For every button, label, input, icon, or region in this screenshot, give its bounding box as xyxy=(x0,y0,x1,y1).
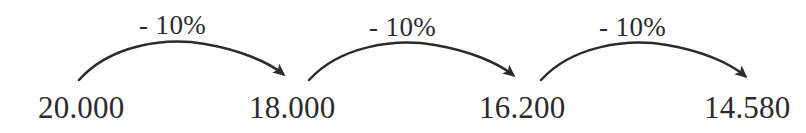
transition-arrow-1 xyxy=(79,42,283,80)
decline-flow-diagram: - 10% - 10% - 10% 20.000 18.000 16.200 1… xyxy=(0,0,806,133)
transition-label-1: - 10% xyxy=(139,12,206,39)
transition-arrow-2 xyxy=(309,43,513,80)
value-label-1: 20.000 xyxy=(38,92,124,123)
value-label-2: 18.000 xyxy=(249,92,335,123)
value-label-4: 14.580 xyxy=(704,92,790,123)
transition-label-3: - 10% xyxy=(599,14,666,41)
value-label-3: 16.200 xyxy=(479,92,565,123)
transition-label-2: - 10% xyxy=(369,14,436,41)
transition-arrow-3 xyxy=(541,43,745,80)
